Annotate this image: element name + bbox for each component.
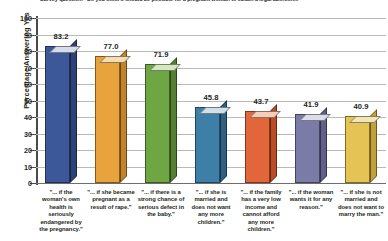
- y-axis-tick-label: 0: [8, 179, 32, 188]
- bar-front-face: [195, 107, 220, 183]
- bar-value-label: 77.0: [88, 42, 134, 51]
- bar: [145, 64, 170, 183]
- gridline: [36, 84, 386, 85]
- bar-front-face: [295, 114, 320, 183]
- bar-side-face: [70, 39, 77, 183]
- plot-area: 100908070605040302010083.277.071.945.843…: [36, 18, 386, 183]
- bar: [95, 56, 120, 183]
- y-axis-tick-label: 90: [8, 31, 32, 40]
- x-axis-category-label: "... if there is a strong chance of seri…: [137, 189, 185, 219]
- x-axis-category-label: "... if she is not married and does not …: [337, 189, 385, 219]
- bar-value-label: 71.9: [138, 50, 184, 59]
- bar: [45, 46, 70, 183]
- x-axis-category-label: "... if she became pregnant as a result …: [87, 189, 135, 211]
- x-axis-category-label: "... if she is married and does not want…: [187, 189, 235, 226]
- y-axis-tick-label: 20: [8, 146, 32, 155]
- y-axis-tick-label: 70: [8, 64, 32, 73]
- gridline: [36, 51, 386, 52]
- x-axis-category-label: "... if the woman's own health is seriou…: [37, 189, 85, 233]
- bar-front-face: [245, 111, 270, 183]
- bar: [295, 114, 320, 183]
- bar-value-label: 45.8: [188, 93, 234, 102]
- y-axis-tick-label: 30: [8, 130, 32, 139]
- gridline: [36, 18, 386, 19]
- bar-value-label: 83.2: [38, 32, 84, 41]
- bar: [195, 107, 220, 183]
- bar-front-face: [45, 46, 70, 183]
- gridline: [36, 35, 386, 36]
- y-axis-tick-label: 100: [8, 14, 32, 23]
- bar-side-face: [120, 49, 127, 183]
- y-axis-tick-label: 80: [8, 47, 32, 56]
- x-axis-category-label: "... if the woman wants it for any reaso…: [287, 189, 335, 211]
- bar-front-face: [145, 64, 170, 183]
- bar: [345, 116, 370, 183]
- y-axis-tick-label: 40: [8, 113, 32, 122]
- bar-chart: Survey question: "Do you think it should…: [0, 0, 388, 241]
- bar: [245, 111, 270, 183]
- bar-front-face: [95, 56, 120, 183]
- y-axis-tick-label: 50: [8, 97, 32, 106]
- chart-title: Survey question: "Do you think it should…: [40, 0, 386, 2]
- bar-value-label: 43.7: [238, 97, 284, 106]
- bar-value-label: 40.9: [338, 102, 384, 111]
- y-axis-tick-label: 10: [8, 163, 32, 172]
- gridline: [36, 183, 386, 184]
- bar-front-face: [345, 116, 370, 183]
- gridline: [36, 68, 386, 69]
- bar-value-label: 41.9: [288, 100, 334, 109]
- y-axis-tick-label: 60: [8, 80, 32, 89]
- x-axis-category-label: "... if the family has a very low income…: [237, 189, 285, 233]
- bar-side-face: [170, 57, 177, 183]
